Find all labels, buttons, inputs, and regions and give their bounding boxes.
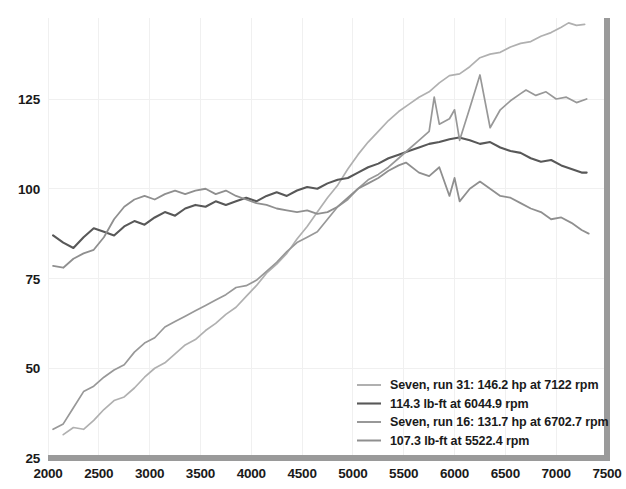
x-axis-tick-labels: 2000250030003500400045005000550060006500… (33, 466, 621, 481)
series-line-3 (53, 75, 587, 429)
y-tick-label: 100 (18, 182, 40, 197)
x-tick-label: 4500 (287, 466, 316, 481)
x-tick-label: 5000 (338, 466, 367, 481)
x-tick-label: 7000 (542, 466, 571, 481)
series-line-4 (53, 163, 589, 268)
y-tick-label: 75 (25, 272, 40, 287)
y-tick-label: 125 (18, 92, 41, 107)
y-axis-line-right (604, 18, 610, 461)
x-tick-label: 6000 (440, 466, 469, 481)
legend-label-2: 114.3 lb-ft at 6044.9 rpm (390, 397, 529, 411)
x-tick-label: 2000 (33, 466, 62, 481)
legend-label-1: Seven, run 31: 146.2 hp at 7122 rpm (390, 378, 598, 392)
chart-legend: Seven, run 31: 146.2 hp at 7122 rpm114.3… (357, 378, 609, 448)
legend-label-4: 107.3 lb-ft at 5522.4 rpm (390, 434, 529, 448)
chart-plot-area: 255075100125 200025003000350040004500500… (0, 0, 626, 489)
x-tick-label: 6500 (491, 466, 520, 481)
x-tick-label: 4000 (237, 466, 266, 481)
x-tick-label: 2500 (84, 466, 113, 481)
legend-label-3: Seven, run 16: 131.7 hp at 6702.7 rpm (390, 415, 609, 429)
dyno-chart: 255075100125 200025003000350040004500500… (0, 0, 626, 489)
x-tick-label: 5500 (389, 466, 418, 481)
series-line-1 (63, 23, 584, 435)
x-tick-label: 3500 (186, 466, 215, 481)
series-lines (53, 23, 589, 435)
y-axis-tick-labels: 255075100125 (18, 92, 41, 466)
x-axis-line (48, 455, 610, 461)
axis-lines (48, 18, 610, 461)
x-tick-label: 3000 (135, 466, 164, 481)
gridlines (48, 18, 607, 458)
x-tick-label: 7500 (592, 466, 621, 481)
y-tick-label: 25 (25, 451, 40, 466)
series-line-2 (53, 137, 587, 248)
y-tick-label: 50 (25, 361, 40, 376)
